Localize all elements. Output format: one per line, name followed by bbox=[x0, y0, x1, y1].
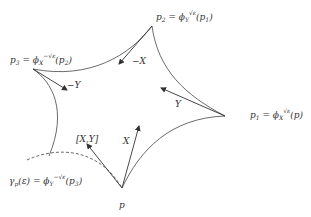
label-neg-y: −Y bbox=[67, 81, 80, 90]
label-gamma: γp(ε) = ϕY−√ε(p3) bbox=[9, 174, 82, 187]
label-p3: p3 = ϕX−√ε(p2) bbox=[10, 53, 72, 66]
label-neg-x: −X bbox=[132, 57, 146, 66]
vector-bracket bbox=[87, 144, 122, 188]
flow-curve-y bbox=[152, 26, 225, 116]
label-bracket: [X,Y] bbox=[76, 135, 98, 144]
label-p1: p1 = ϕX√ε(p) bbox=[250, 108, 303, 121]
label-x: X bbox=[123, 137, 129, 146]
flow-curve-x bbox=[122, 116, 225, 188]
label-p: p bbox=[119, 201, 125, 210]
label-p2: p2 = ϕY√ε(p1) bbox=[156, 10, 213, 23]
label-y: Y bbox=[175, 100, 181, 109]
vector-y bbox=[161, 88, 225, 116]
